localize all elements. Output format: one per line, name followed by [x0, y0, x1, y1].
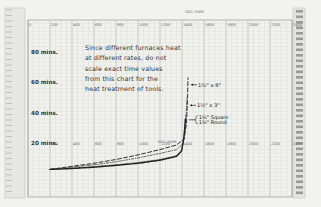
x-tick-label-top: 1400 — [183, 23, 193, 27]
ruler-mark — [296, 43, 303, 46]
label-1-5x6: 1½" x 6" — [198, 82, 221, 88]
y-axis-label: 60 mins. — [31, 79, 58, 85]
ruler-mark — [296, 93, 303, 96]
x-tick-label-top: 400 — [73, 23, 81, 27]
ruler-mark — [296, 109, 303, 112]
ruler-mark — [296, 60, 303, 63]
ruler-mark — [296, 186, 303, 189]
ruler-mark — [296, 175, 303, 178]
ruler-mark — [296, 126, 303, 129]
x-tick-label-top: 200 — [51, 23, 59, 27]
x-tick-label-mid: 2400 — [293, 142, 303, 146]
x-tick-label-mid: 1000 — [139, 142, 149, 146]
ruler-mark — [296, 137, 303, 140]
x-tick-label-top: 2200 — [271, 23, 281, 27]
chart-annotation-note: Since different furnaces heat at differe… — [85, 43, 197, 94]
ruler-mark — [296, 32, 303, 35]
ruler-mark — [296, 38, 303, 41]
x-tick-label-top: 1600 — [205, 23, 215, 27]
ruler-mark — [296, 170, 303, 173]
ruler-mark — [296, 82, 303, 85]
chart-sheet: 0200200400400600600800800100010001200120… — [0, 0, 321, 207]
ruler-mark — [296, 49, 303, 52]
note-line: Since different furnaces heat — [85, 43, 197, 53]
x-tick-label-mid: 1800 — [227, 142, 237, 146]
x-tick-label-top: 2400 — [293, 23, 303, 27]
ruler-mark — [296, 87, 303, 90]
time-temperature-chart: 0200200400400600600800800100010001200120… — [0, 0, 321, 207]
ruler-mark — [296, 115, 303, 118]
ruler-mark — [296, 181, 303, 184]
note-line: at different rates, do not — [85, 53, 197, 63]
ruler-mark — [296, 131, 303, 134]
ruler-mark — [296, 76, 303, 79]
label-1-5-round: 1½" Round — [199, 119, 227, 125]
x-axis-title-top: DEG. FAHR. — [185, 10, 204, 14]
y-axis-label: 40 mins. — [31, 110, 58, 116]
x-tick-label-top: 600 — [95, 23, 103, 27]
x-tick-label-mid: 1400 — [183, 142, 193, 146]
ruler-mark — [296, 16, 303, 19]
note-line: from this chart for the — [85, 74, 197, 84]
ruler-mark — [296, 164, 303, 167]
ruler-mark — [296, 148, 303, 151]
ruler-mark — [296, 54, 303, 57]
x-tick-label-mid: 2200 — [271, 142, 281, 146]
x-tick-label-mid: 400 — [73, 142, 81, 146]
ruler-mark — [296, 104, 303, 107]
note-line: heat treatment of tools. — [85, 84, 197, 94]
x-tick-label-top: 1000 — [139, 23, 149, 27]
ruler-mark — [296, 192, 303, 195]
ruler-mark — [296, 65, 303, 68]
x-tick-label-top: 1800 — [227, 23, 237, 27]
x-axis-title-mid: DEG. FAHR. — [158, 140, 177, 144]
x-tick-label-top: 1200 — [161, 23, 171, 27]
y-axis-label: 20 mins. — [31, 140, 58, 146]
x-tick-label-top: 800 — [117, 23, 125, 27]
ruler-mark — [296, 71, 303, 74]
label-1-5x3: 1½" x 3" — [197, 102, 220, 108]
x-tick-label-mid: 1600 — [205, 142, 215, 146]
x-tick-label-mid: 2000 — [249, 142, 259, 146]
ruler-mark — [296, 159, 303, 162]
ruler-mark — [296, 153, 303, 156]
x-tick-label-mid: 800 — [117, 142, 125, 146]
x-tick-label-mid: 600 — [95, 142, 103, 146]
y-axis-label: 80 mins. — [31, 49, 58, 55]
ruler-mark — [296, 10, 303, 13]
ruler-mark — [296, 120, 303, 123]
note-line: scale exact time values — [85, 64, 197, 74]
x-tick-label-top: 2000 — [249, 23, 259, 27]
ruler-mark — [296, 98, 303, 101]
